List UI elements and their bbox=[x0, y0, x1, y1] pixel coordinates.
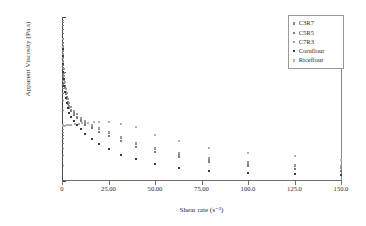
x-tick-label: 25.00 bbox=[89, 186, 129, 193]
legend-item-riceflour[interactable]: Riceflour bbox=[293, 56, 340, 65]
legend-item-c7r3[interactable]: C7R3 bbox=[293, 37, 340, 46]
legend-marker-icon bbox=[293, 32, 295, 34]
x-tick-mark bbox=[155, 181, 156, 185]
x-tick-label: 100.0 bbox=[228, 186, 268, 193]
data-point bbox=[68, 102, 70, 104]
data-point bbox=[135, 126, 137, 128]
legend-item-label: Riceflour bbox=[299, 57, 324, 64]
data-point bbox=[135, 146, 137, 148]
x-tick-mark bbox=[202, 181, 203, 185]
chart-legend: C3R7C5R5C7R3CornflourRiceflour bbox=[288, 15, 344, 69]
data-point bbox=[64, 91, 66, 93]
data-point bbox=[70, 124, 72, 126]
x-axis-title: Shear rate (s⁻¹) bbox=[62, 205, 341, 214]
data-point bbox=[62, 42, 64, 44]
x-tick-mark bbox=[109, 181, 110, 185]
data-point bbox=[80, 128, 82, 130]
data-point bbox=[135, 158, 137, 160]
legend-marker-icon bbox=[293, 41, 295, 43]
x-tick-mark bbox=[295, 181, 296, 185]
data-point bbox=[80, 117, 82, 119]
data-point bbox=[340, 174, 342, 176]
data-point bbox=[70, 116, 72, 118]
data-point bbox=[98, 143, 100, 145]
data-point bbox=[108, 148, 110, 150]
legend-item-label: C5R5 bbox=[299, 30, 314, 37]
legend-marker-icon bbox=[293, 22, 295, 24]
y-tick-minor-mark bbox=[62, 135, 64, 136]
y-tick-minor-mark bbox=[62, 93, 64, 94]
data-point bbox=[208, 161, 210, 163]
data-point bbox=[65, 97, 67, 99]
data-point bbox=[108, 131, 110, 133]
y-tick-minor-mark bbox=[62, 132, 64, 133]
data-point bbox=[73, 120, 75, 122]
data-point bbox=[178, 156, 180, 158]
data-point bbox=[62, 71, 64, 73]
data-point bbox=[247, 165, 249, 167]
legend-item-label: Cornflour bbox=[299, 48, 325, 55]
data-point bbox=[84, 124, 86, 126]
data-point bbox=[91, 127, 93, 129]
y-tick-minor-mark bbox=[62, 33, 64, 34]
data-point bbox=[81, 122, 83, 124]
data-point bbox=[120, 136, 122, 138]
data-point bbox=[66, 92, 68, 94]
data-point bbox=[68, 112, 70, 114]
data-point bbox=[108, 121, 110, 123]
data-point bbox=[78, 123, 80, 125]
data-point bbox=[178, 140, 180, 142]
data-point bbox=[63, 85, 65, 87]
data-point bbox=[76, 113, 78, 115]
data-point bbox=[294, 173, 296, 175]
y-tick-minor-mark bbox=[62, 165, 64, 166]
data-point bbox=[120, 154, 122, 156]
x-tick-label: 125.0 bbox=[275, 186, 315, 193]
data-point bbox=[63, 78, 65, 80]
data-point bbox=[91, 138, 93, 140]
y-tick-mark bbox=[62, 17, 66, 18]
data-point bbox=[62, 38, 64, 40]
data-point bbox=[247, 161, 249, 163]
figure: Apparent Viscosity (Pa.s) Shear rate (s⁻… bbox=[0, 0, 366, 226]
data-point bbox=[98, 127, 100, 129]
data-point bbox=[62, 63, 64, 65]
data-point bbox=[247, 152, 249, 154]
y-tick-minor-mark bbox=[62, 143, 64, 144]
data-point bbox=[65, 88, 67, 90]
data-point bbox=[67, 107, 69, 109]
x-tick-mark bbox=[62, 181, 63, 185]
legend-marker-icon bbox=[293, 50, 295, 52]
legend-item-c5r5[interactable]: C5R5 bbox=[293, 28, 340, 37]
data-point bbox=[62, 64, 64, 66]
legend-item-label: C3R7 bbox=[299, 20, 314, 27]
x-tick-label: 75.00 bbox=[182, 186, 222, 193]
x-tick-label: 150.0 bbox=[321, 186, 361, 193]
legend-item-cornflour[interactable]: Cornflour bbox=[293, 47, 340, 56]
data-point bbox=[73, 110, 75, 112]
data-point bbox=[62, 50, 64, 52]
x-tick-mark bbox=[341, 181, 342, 185]
data-point bbox=[62, 55, 64, 57]
y-tick-minor-mark bbox=[62, 22, 64, 23]
data-point bbox=[74, 123, 76, 125]
data-point bbox=[154, 151, 156, 153]
legend-marker-icon bbox=[293, 59, 295, 61]
data-point bbox=[135, 142, 137, 144]
data-point bbox=[76, 117, 78, 119]
data-point bbox=[294, 164, 296, 166]
data-point bbox=[66, 102, 68, 104]
data-point bbox=[178, 167, 180, 169]
data-point bbox=[208, 147, 210, 149]
y-tick-minor-mark bbox=[62, 138, 64, 139]
legend-item-c3r7[interactable]: C3R7 bbox=[293, 19, 340, 28]
data-point bbox=[87, 122, 89, 124]
data-point bbox=[340, 159, 342, 161]
data-point bbox=[178, 152, 180, 154]
y-tick-minor-mark bbox=[62, 110, 64, 111]
legend-item-label: C7R3 bbox=[299, 39, 314, 46]
data-point bbox=[70, 106, 72, 108]
x-tick-label: 0 bbox=[42, 186, 82, 193]
data-point bbox=[340, 170, 342, 172]
data-point bbox=[64, 81, 66, 83]
